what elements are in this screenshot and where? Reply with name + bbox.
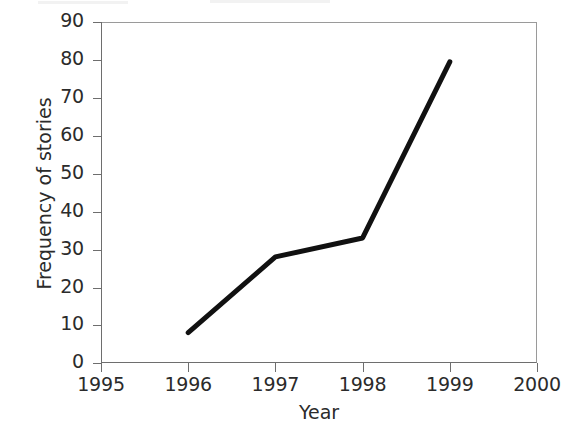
x-tick-mark: [101, 363, 102, 372]
y-tick-mark: [93, 288, 102, 289]
x-tick-label: 1999: [410, 374, 490, 395]
y-tick-label: 0: [44, 352, 84, 371]
scan-artifact: [38, 1, 128, 4]
y-tick-mark: [93, 60, 102, 61]
x-tick-mark: [275, 363, 276, 372]
line-chart-figure: 90 80 70 60 50 40 30 20 10 0 1995 1996 1…: [0, 0, 573, 438]
x-tick-label: 1995: [61, 374, 141, 395]
x-axis-title: Year: [101, 402, 537, 423]
y-tick-mark: [93, 325, 102, 326]
x-tick-mark: [188, 363, 189, 372]
y-tick-mark: [93, 98, 102, 99]
y-axis-title: Frequency of stories: [34, 44, 55, 344]
y-tick-mark: [93, 22, 102, 23]
x-tick-label: 1997: [235, 374, 315, 395]
y-tick-mark: [93, 212, 102, 213]
y-tick-label: 90: [44, 11, 84, 30]
x-tick-mark: [450, 363, 451, 372]
scan-artifact: [210, 0, 330, 3]
plot-area: [101, 22, 537, 363]
x-tick-mark: [537, 363, 538, 372]
x-tick-label: 1998: [323, 374, 403, 395]
x-tick-mark: [363, 363, 364, 372]
x-tick-label: 2000: [497, 374, 573, 395]
x-tick-label: 1996: [148, 374, 228, 395]
y-tick-mark: [93, 136, 102, 137]
y-tick-mark: [93, 250, 102, 251]
y-tick-mark: [93, 174, 102, 175]
